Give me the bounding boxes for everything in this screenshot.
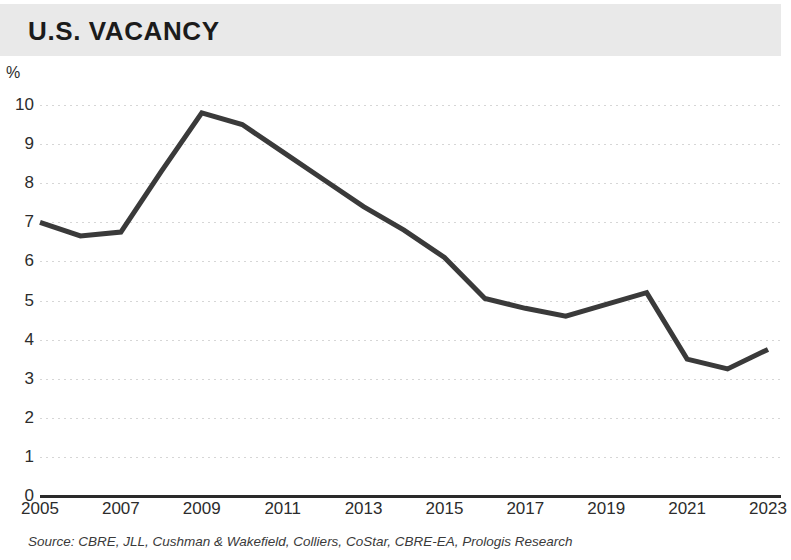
x-tick-label: 2015 xyxy=(409,500,479,517)
vacancy-data-polyline xyxy=(40,113,768,369)
x-tick-label: 2023 xyxy=(733,500,791,517)
x-tick-label: 2005 xyxy=(5,500,75,517)
x-axis: 2005200720092011201320152017201920212023 xyxy=(0,500,781,530)
vacancy-line-series xyxy=(0,56,781,516)
x-axis-baseline xyxy=(40,495,781,498)
chart-plot-area: % 109876543210 xyxy=(0,56,781,516)
page-title: U.S. VACANCY xyxy=(28,16,220,47)
x-tick-label: 2021 xyxy=(652,500,722,517)
x-tick-label: 2007 xyxy=(86,500,156,517)
x-tick-label: 2011 xyxy=(248,500,318,517)
x-tick-label: 2017 xyxy=(490,500,560,517)
x-axis-labels: 2005200720092011201320152017201920212023 xyxy=(0,500,781,530)
x-tick-label: 2013 xyxy=(329,500,399,517)
source-note: Source: CBRE, JLL, Cushman & Wakefield, … xyxy=(28,534,572,549)
title-band: U.S. VACANCY xyxy=(0,4,781,56)
x-tick-label: 2019 xyxy=(571,500,641,517)
x-tick-label: 2009 xyxy=(167,500,237,517)
